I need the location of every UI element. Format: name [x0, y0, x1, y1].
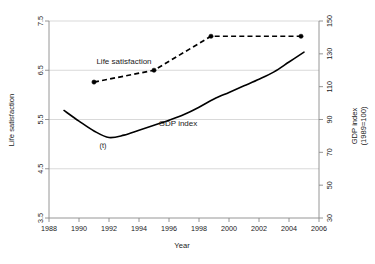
x-tick-label: 1992 — [101, 224, 117, 233]
life-satisfaction-label: Life satisfaction — [96, 57, 151, 66]
y2-tick-label: 90 — [325, 116, 334, 124]
y2-tick-label: 150 — [325, 15, 334, 27]
y2-tick-label: 110 — [325, 81, 334, 92]
data-point-marker — [209, 34, 213, 38]
chart-container: 1988199019921994199619982000200220042006… — [0, 0, 375, 264]
y2-tick-label: 50 — [325, 181, 334, 189]
y-axis-title: Life satisfaction — [7, 94, 16, 146]
secondary-y-axis-title-line1: GDP index — [350, 108, 359, 145]
gdp-index-label: GDP index — [159, 119, 198, 128]
data-point-marker — [299, 34, 303, 38]
x-axis-title: Year — [174, 241, 190, 250]
y-tick-label: 3.5 — [36, 213, 45, 223]
y-tick-label: 6.5 — [36, 65, 45, 75]
x-tick-label: 1990 — [71, 224, 87, 233]
y2-tick-label: 130 — [325, 48, 334, 60]
y-tick-label: 4.5 — [36, 164, 45, 174]
x-tick-label: 2000 — [221, 224, 237, 233]
y2-tick-label: 30 — [325, 214, 334, 222]
x-tick-label: 1996 — [161, 224, 177, 233]
y-tick-label: 5.5 — [36, 115, 45, 125]
x-tick-label: 1998 — [191, 224, 207, 233]
secondary-y-axis-title-line2: (1989=100) — [359, 106, 368, 146]
y2-tick-label: 70 — [325, 148, 334, 156]
x-tick-label: 2002 — [251, 224, 267, 233]
x-tick-label: 2006 — [311, 224, 327, 233]
dual-axis-line-chart: 1988199019921994199619982000200220042006… — [0, 0, 375, 264]
y-tick-label: 7.5 — [36, 16, 45, 26]
x-tick-label: 2004 — [281, 224, 297, 233]
x-tick-label: 1994 — [131, 224, 147, 233]
data-point-marker — [152, 68, 156, 72]
gridlines-group — [49, 21, 319, 169]
x-tick-label: 1988 — [41, 224, 57, 233]
trough-marker-label: (t) — [100, 141, 107, 150]
data-point-marker — [92, 80, 96, 84]
